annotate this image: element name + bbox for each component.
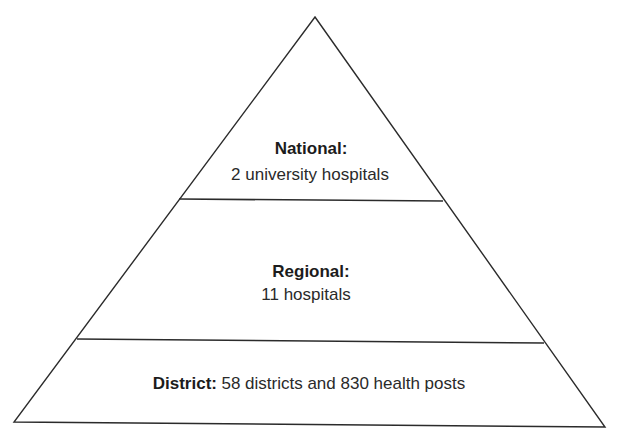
tier-regional-title: Regional: [272, 262, 349, 281]
pyramid-outline [14, 17, 605, 427]
tier-district-line: District: 58 districts and 830 health po… [153, 374, 466, 393]
tier-national-title: National: [275, 139, 348, 158]
tier-national-description: 2 university hospitals [231, 165, 389, 184]
tier-regional-description: 11 hospitals [261, 285, 350, 304]
tier-district: District: 58 districts and 830 health po… [153, 374, 466, 393]
tier-district-description: 58 districts and 830 health posts [221, 374, 465, 393]
tier-district-title: District: [153, 374, 217, 393]
pyramid-diagram: National: 2 university hospitals Regiona… [0, 0, 619, 441]
